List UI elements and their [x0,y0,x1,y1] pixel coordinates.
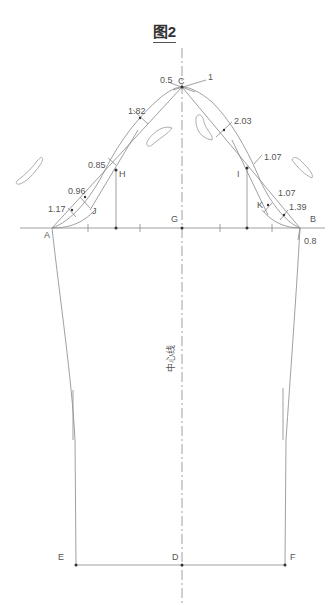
point-a-label: A [44,230,50,240]
center-line-label: 中心线 [165,345,176,372]
measure-1-82: 1.82 [128,106,146,116]
point-b-label: B [310,214,316,224]
sleeve-pattern-diagram: C 0.5 1 1.82 2.03 0.85 H 1.07 I 0.96 1.1… [0,0,329,605]
measure-1-39: 1.39 [289,202,307,212]
point-e-label: E [58,552,64,562]
back-guide-line [182,87,300,228]
point-d-label: D [172,552,179,562]
measure-1-07-lower: 1.07 [278,188,296,198]
measure-1: 1 [208,72,213,82]
measure-2-03: 2.03 [234,116,252,126]
point-g-label: G [171,214,178,224]
measure-1-17: 1.17 [48,204,66,214]
h-tangent [90,130,138,210]
left-sleeve-seam [52,228,76,565]
measure-0-85: 0.85 [88,160,106,170]
right-sleeve-seam [285,228,300,565]
point-j-label: J [92,206,97,216]
measure-0-96: 0.96 [68,186,86,196]
point-i-label: I [237,169,240,179]
point-h-label: H [119,169,126,179]
point-f-label: F [290,552,296,562]
french-curve-icon [16,115,312,184]
offset-1-07-upper [254,155,262,164]
point-c-label: C [178,76,185,86]
point-k-label: K [257,200,263,210]
measure-0-8: 0.8 [304,236,317,246]
measure-0-5: 0.5 [160,75,173,85]
front-guide-line [52,87,182,228]
measure-1-07-upper: 1.07 [264,152,282,162]
